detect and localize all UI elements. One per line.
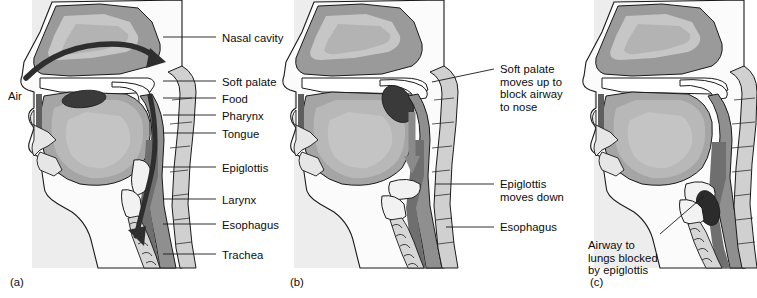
label-panel-a-2: Food [222, 93, 248, 106]
panel-a-letter: (a) [10, 276, 24, 288]
label-panel-a-4: Tongue [222, 128, 259, 141]
label-panel-c-0: Airway to lungs blocked by epiglottis [588, 239, 658, 277]
label-panel-a-3: Pharynx [222, 110, 264, 123]
panel-c-letter: (c) [590, 276, 603, 288]
label-panel-a-5: Epiglottis [222, 162, 268, 175]
label-panel-a-0: Nasal cavity [222, 32, 284, 45]
label-panel-b-0: Soft palate moves up to block airway to … [500, 63, 563, 113]
panel-b-artwork [262, 0, 580, 298]
panel-b-letter: (b) [290, 276, 304, 288]
label-panel-a-7: Esophagus [222, 219, 279, 232]
label-panel-b-1: Epiglottis moves down [500, 178, 564, 203]
swallowing-diagram-figure: Air (a) [0, 0, 757, 298]
label-panel-b-2: Esophagus [500, 221, 557, 234]
air-label: Air [8, 90, 22, 102]
label-panel-a-8: Trachea [222, 249, 263, 262]
panel-b: (b) [262, 0, 580, 298]
label-panel-a-1: Soft palate [222, 76, 277, 89]
label-panel-a-6: Larynx [222, 194, 256, 207]
